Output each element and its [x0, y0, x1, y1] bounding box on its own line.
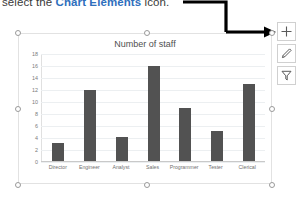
- bar-column[interactable]: [233, 54, 265, 161]
- gridline: [41, 162, 265, 163]
- bar[interactable]: [84, 90, 96, 161]
- chart-object[interactable]: Number of staff 181614121086420 Director…: [18, 33, 272, 184]
- chart-elements-icon[interactable]: [277, 22, 296, 41]
- instruction-suffix: icon.: [141, 0, 169, 8]
- x-axis-label: Analyst: [105, 164, 137, 170]
- bar-column[interactable]: [201, 54, 233, 161]
- chart-tool-buttons[interactable]: [277, 22, 296, 85]
- instruction-highlight: Chart Elements: [56, 0, 142, 8]
- bar[interactable]: [116, 137, 128, 161]
- x-axis-label: Director: [42, 164, 74, 170]
- y-axis-tick-label: 14: [32, 75, 38, 81]
- y-axis-tick-label: 16: [32, 63, 38, 69]
- y-axis-tick-label: 10: [32, 99, 38, 105]
- x-axis-label: Programmer: [168, 164, 200, 170]
- y-axis-tick-label: 4: [35, 135, 38, 141]
- chart-styles-icon[interactable]: [277, 44, 296, 63]
- bar[interactable]: [52, 143, 64, 161]
- y-axis-tick-label: 8: [35, 111, 38, 117]
- x-axis-labels: DirectorEngineerAnalystSalesProgrammerTe…: [42, 164, 263, 170]
- y-axis-tick-label: 6: [35, 123, 38, 129]
- bar-column[interactable]: [169, 54, 201, 161]
- screenshot-root: select the Chart Elements icon. Number o…: [0, 0, 307, 200]
- chart-filters-icon[interactable]: [277, 66, 296, 85]
- bar[interactable]: [148, 66, 160, 161]
- y-axis-tick-label: 12: [32, 87, 38, 93]
- selection-handle-middle-right[interactable]: [269, 106, 275, 112]
- bar-series[interactable]: [42, 54, 265, 161]
- x-axis-label: Engineer: [74, 164, 106, 170]
- bar-column[interactable]: [42, 54, 74, 161]
- plot-area[interactable]: 181614121086420: [41, 54, 265, 162]
- y-axis-tick-label: 18: [32, 51, 38, 57]
- selection-handle-bottom-right[interactable]: [269, 182, 275, 188]
- bar[interactable]: [211, 131, 223, 161]
- x-axis-label: Sales: [137, 164, 169, 170]
- bar-column[interactable]: [74, 54, 106, 161]
- selection-handle-bottom-left[interactable]: [15, 182, 21, 188]
- instruction-prefix: select the: [2, 0, 56, 8]
- y-axis-tick-label: 0: [35, 159, 38, 165]
- selection-handle-middle-left[interactable]: [15, 106, 21, 112]
- selection-handle-top-right[interactable]: [269, 30, 275, 36]
- selection-handle-bottom-center[interactable]: [144, 182, 150, 188]
- selection-handle-top-left[interactable]: [15, 30, 21, 36]
- y-axis-tick-label: 2: [35, 147, 38, 153]
- bar-column[interactable]: [106, 54, 138, 161]
- x-axis-label: Tester: [200, 164, 232, 170]
- bar[interactable]: [243, 84, 255, 161]
- selection-handle-top-center[interactable]: [144, 30, 150, 36]
- x-axis-label: Clerical: [231, 164, 263, 170]
- chart-title[interactable]: Number of staff: [19, 39, 271, 49]
- bar-column[interactable]: [138, 54, 170, 161]
- bar[interactable]: [179, 108, 191, 162]
- instruction-text: select the Chart Elements icon.: [2, 0, 169, 8]
